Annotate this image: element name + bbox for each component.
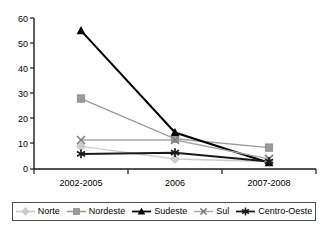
legend-item-norte: Norte — [16, 205, 60, 218]
plot-area: 60 50 40 30 20 10 0 — [0, 0, 328, 196]
legend-label: Sudeste — [154, 205, 187, 218]
square-marker-icon — [67, 205, 86, 218]
plot-svg: 60 50 40 30 20 10 0 — [0, 0, 328, 196]
x-axis-tick-labels: 2002-2005 2006 2007-2008 — [59, 178, 290, 188]
y-tick-label: 10 — [18, 139, 28, 149]
x-tick-label: 2002-2005 — [59, 178, 102, 188]
data-point-nordeste — [77, 95, 84, 102]
legend-label: Nordeste — [89, 205, 126, 218]
line-chart: 60 50 40 30 20 10 0 — [0, 0, 328, 229]
y-tick-label: 30 — [18, 89, 28, 99]
diamond-marker-icon — [16, 205, 35, 218]
series-layer — [77, 26, 274, 166]
legend-label: Norte — [38, 205, 60, 218]
y-tick-label: 40 — [18, 64, 28, 74]
data-point-nordeste — [171, 135, 178, 142]
chart-legend: Norte Nordeste Sudeste Sul — [12, 202, 316, 221]
y-axis-tick-labels: 60 50 40 30 20 10 0 — [18, 14, 28, 174]
y-tick-label: 0 — [23, 164, 28, 174]
y-tick-label: 50 — [18, 39, 28, 49]
legend-label: Sul — [216, 205, 229, 218]
legend-item-sudeste: Sudeste — [132, 205, 187, 218]
data-point-sudeste — [77, 26, 86, 34]
legend-label: Centro-Oeste — [258, 205, 312, 218]
legend-item-nordeste: Nordeste — [67, 205, 126, 218]
y-tick-label: 20 — [18, 114, 28, 124]
x-tick-label: 2007-2008 — [247, 178, 290, 188]
legend-item-sul: Sul — [194, 205, 229, 218]
triangle-marker-icon — [132, 205, 151, 218]
x-tick-label: 2006 — [165, 178, 185, 188]
star-marker-icon — [236, 205, 255, 218]
x-marker-icon — [194, 205, 213, 218]
y-tick-label: 60 — [18, 14, 28, 24]
legend-item-centro-oeste: Centro-Oeste — [236, 205, 312, 218]
x-axis-ticks — [34, 169, 316, 174]
data-point-nordeste — [265, 144, 272, 151]
